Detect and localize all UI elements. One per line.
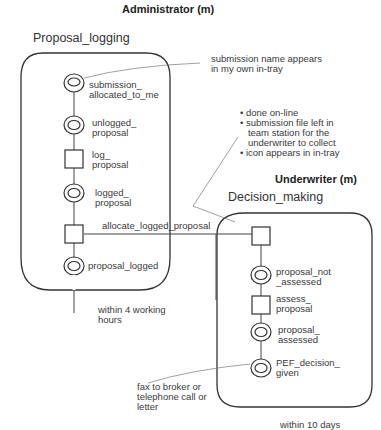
state-proposal-not-assessed <box>251 266 271 284</box>
admin-duration: within 4 working hours <box>98 305 166 325</box>
activity-log-proposal <box>65 150 83 168</box>
label-logged-proposal: logged_ proposal <box>95 188 131 208</box>
label-submission-allocated: submission_ allocated_to_me <box>89 80 159 100</box>
administrator-role-label: Administrator (m) <box>122 4 214 14</box>
state-logged-proposal <box>64 184 84 202</box>
label-allocate: allocate_logged_proposal <box>102 221 210 231</box>
state-proposal-assessed <box>251 323 271 341</box>
label-unlogged-proposal: unlogged_ proposal <box>92 118 136 138</box>
label-proposal-not-assessed: proposal_not _assessed <box>276 267 331 287</box>
proposal-logging-title: Proposal_logging <box>33 33 130 43</box>
label-log-proposal: log_ proposal <box>92 150 128 170</box>
state-pef-decision <box>251 359 271 377</box>
state-unlogged-proposal <box>64 116 84 134</box>
state-submission-allocated <box>64 74 84 92</box>
label-pef-decision: PEF_decision_ given <box>276 358 340 378</box>
decision-making-title: Decision_making <box>228 192 323 202</box>
label-assess-proposal: assess_ proposal <box>276 294 312 314</box>
annotation-online: • done on-line • submission file left in… <box>240 108 339 158</box>
underwriter-duration: within 10 days <box>280 420 340 430</box>
annotation-intray: submission name appears in my own in-tra… <box>211 54 322 74</box>
annotation-fax: fax to broker or telephone call or lette… <box>137 382 207 412</box>
activity-allocate <box>65 225 83 243</box>
activity-receive <box>252 227 270 245</box>
activity-assess-proposal <box>252 296 270 314</box>
state-proposal-logged <box>64 257 84 275</box>
label-proposal-assessed: proposal_ assessed <box>278 325 320 345</box>
underwriter-role-label: Underwriter (m) <box>275 174 357 184</box>
label-proposal-logged: proposal_logged <box>88 261 158 271</box>
